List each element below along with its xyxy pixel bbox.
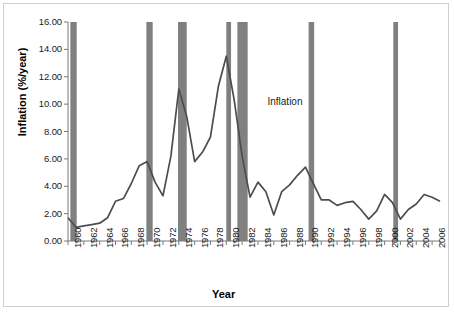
x-tick-label: 1986	[278, 228, 289, 248]
x-tick-label: 1980	[230, 228, 241, 248]
y-tick-label: 6.00	[18, 153, 62, 164]
recession-band	[226, 22, 231, 241]
recession-bands	[70, 22, 398, 241]
y-tick-label: 2.00	[18, 208, 62, 219]
x-tick-label: 1960	[72, 228, 83, 248]
x-tick-label: 2004	[420, 228, 431, 248]
y-tick-label: 12.00	[18, 71, 62, 82]
x-tick-label: 1982	[246, 228, 257, 248]
x-tick-label: 1990	[309, 228, 320, 248]
x-tick-label: 1966	[119, 228, 130, 248]
y-tick-label: 10.00	[18, 98, 62, 109]
x-tick-label: 1992	[325, 228, 336, 248]
recession-band	[70, 22, 76, 241]
x-tick-label: 1962	[88, 228, 99, 248]
x-tick-label: 1974	[183, 228, 194, 248]
x-tick-label: 1970	[151, 228, 162, 248]
x-tick-label: 1978	[214, 228, 225, 248]
x-tick-label: 1994	[341, 228, 352, 248]
x-tick-label: 1972	[167, 228, 178, 248]
inflation-line-chart	[0, 0, 454, 312]
y-tick-label: 0.00	[18, 235, 62, 246]
recession-band	[309, 22, 315, 241]
recession-band	[146, 22, 152, 241]
x-tick-label: 2000	[389, 228, 400, 248]
x-tick-label: 1984	[262, 228, 273, 248]
x-tick-label: 1968	[135, 228, 146, 248]
inflation-series-line	[68, 56, 440, 227]
recession-band	[178, 22, 187, 241]
y-tick-label: 16.00	[18, 16, 62, 27]
x-tick-label: 1988	[294, 228, 305, 248]
chart-axes	[64, 22, 440, 245]
x-tick-label: 2002	[404, 228, 415, 248]
x-tick-label: 1964	[104, 228, 115, 248]
y-tick-label: 14.00	[18, 43, 62, 54]
y-tick-label: 8.00	[18, 126, 62, 137]
x-tick-label: 1996	[357, 228, 368, 248]
y-tick-label: 4.00	[18, 180, 62, 191]
x-tick-label: 1998	[373, 228, 384, 248]
x-tick-label: 2006	[436, 228, 447, 248]
x-tick-label: 1976	[199, 228, 210, 248]
